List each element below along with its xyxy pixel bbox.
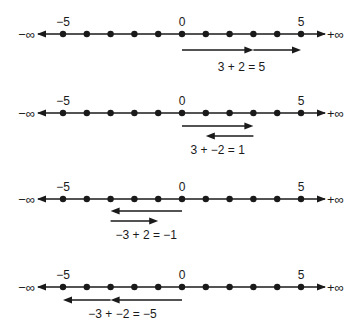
tick-dot [203, 110, 209, 116]
tick-dot [107, 110, 113, 116]
tick-label: −5 [56, 15, 70, 29]
number-line-panel-1: −∞+∞−5053 + 2 = 5 [18, 15, 344, 74]
diagram-canvas: −∞+∞−5053 + 2 = 5−∞+∞−5053 + −2 = 1−∞+∞−… [0, 0, 364, 334]
tick-label: 5 [298, 94, 305, 108]
neg-infinity-label: −∞ [18, 280, 35, 295]
tick-dot [250, 31, 256, 37]
tick-label: 0 [179, 268, 186, 282]
movement-arrowhead-icon [149, 217, 158, 224]
tick-label: −5 [56, 94, 70, 108]
tick-dot [131, 31, 137, 37]
movement-arrowhead-icon [206, 132, 215, 139]
tick-dot [84, 284, 90, 290]
tick-dot [131, 284, 137, 290]
tick-dot [155, 284, 161, 290]
right-arrowhead-icon [317, 30, 326, 37]
right-arrowhead-icon [317, 283, 326, 290]
tick-dot [274, 110, 280, 116]
tick-dot [203, 196, 209, 202]
tick-dot [179, 196, 185, 202]
tick-dot [155, 31, 161, 37]
neg-infinity-label: −∞ [18, 192, 35, 207]
tick-label: 0 [179, 15, 186, 29]
tick-dot [179, 31, 185, 37]
tick-dot [298, 110, 304, 116]
tick-dot [203, 284, 209, 290]
tick-label: 0 [179, 180, 186, 194]
equation-label: −3 + −2 = −5 [88, 307, 157, 321]
movement-arrowhead-icon [292, 46, 301, 53]
tick-dot [155, 196, 161, 202]
movement-arrowhead-icon [111, 296, 120, 303]
tick-dot [226, 31, 232, 37]
movement-arrowhead-icon [244, 46, 253, 53]
movement-arrowhead-icon [111, 207, 120, 214]
tick-dot [226, 284, 232, 290]
pos-infinity-label: +∞ [327, 106, 344, 121]
neg-infinity-label: −∞ [18, 106, 35, 121]
tick-dot [60, 31, 66, 37]
tick-dot [298, 284, 304, 290]
tick-dot [298, 196, 304, 202]
pos-infinity-label: +∞ [327, 27, 344, 42]
tick-dot [107, 284, 113, 290]
number-line-panel-4: −∞+∞−505−3 + −2 = −5 [18, 268, 344, 321]
tick-dot [274, 31, 280, 37]
tick-dot [107, 196, 113, 202]
number-line-diagram: −∞+∞−5053 + 2 = 5−∞+∞−5053 + −2 = 1−∞+∞−… [0, 0, 364, 334]
tick-dot [274, 284, 280, 290]
tick-dot [60, 284, 66, 290]
tick-dot [84, 31, 90, 37]
tick-dot [274, 196, 280, 202]
tick-dot [84, 110, 90, 116]
tick-dot [60, 196, 66, 202]
tick-label: 5 [298, 15, 305, 29]
right-arrowhead-icon [317, 109, 326, 116]
pos-infinity-label: +∞ [327, 280, 344, 295]
tick-dot [250, 196, 256, 202]
tick-dot [226, 196, 232, 202]
tick-label: −5 [56, 180, 70, 194]
tick-label: −5 [56, 268, 70, 282]
tick-dot [179, 110, 185, 116]
tick-dot [298, 31, 304, 37]
equation-label: 3 + 2 = 5 [218, 60, 266, 74]
tick-dot [250, 284, 256, 290]
tick-label: 5 [298, 268, 305, 282]
movement-arrowhead-icon [244, 122, 253, 129]
number-line-panel-3: −∞+∞−505−3 + 2 = −1 [18, 180, 344, 242]
tick-dot [250, 110, 256, 116]
equation-label: 3 + −2 = 1 [191, 143, 246, 157]
movement-arrowhead-icon [63, 296, 72, 303]
left-arrowhead-icon [37, 283, 46, 290]
tick-dot [179, 284, 185, 290]
number-line-panel-2: −∞+∞−5053 + −2 = 1 [18, 94, 344, 157]
tick-dot [131, 110, 137, 116]
tick-dot [60, 110, 66, 116]
tick-dot [203, 31, 209, 37]
tick-dot [155, 110, 161, 116]
tick-dot [107, 31, 113, 37]
tick-dot [226, 110, 232, 116]
right-arrowhead-icon [317, 195, 326, 202]
equation-label: −3 + 2 = −1 [116, 228, 178, 242]
left-arrowhead-icon [37, 109, 46, 116]
tick-label: 5 [298, 180, 305, 194]
left-arrowhead-icon [37, 30, 46, 37]
tick-dot [84, 196, 90, 202]
pos-infinity-label: +∞ [327, 192, 344, 207]
neg-infinity-label: −∞ [18, 27, 35, 42]
tick-label: 0 [179, 94, 186, 108]
tick-dot [131, 196, 137, 202]
left-arrowhead-icon [37, 195, 46, 202]
